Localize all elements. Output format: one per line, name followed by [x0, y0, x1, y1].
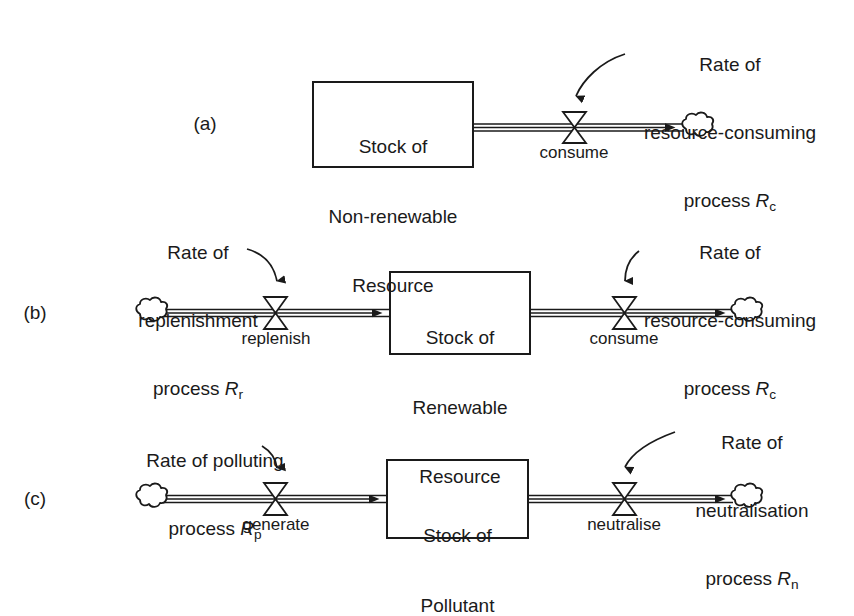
- rate-label-b-replenish-line2: replenishment: [108, 310, 288, 333]
- rate-subscript-c-generate: p: [254, 527, 262, 542]
- rate-label-c-neutralise-line1: Rate of: [654, 432, 850, 455]
- rate-label-c-neutralise-line3: process Rn: [654, 568, 850, 594]
- rate-label-c-generate-line2-text: process: [168, 518, 240, 539]
- stock-label-c-line1: Stock of: [387, 524, 528, 547]
- rate-label-b-replenish-line3-text: process: [153, 378, 225, 399]
- rate-label-c-generate-line1: Rate of polluting: [100, 450, 330, 473]
- rate-label-b-consume-line2: resource-consuming: [610, 310, 850, 333]
- panel-letter-b: (b): [10, 302, 60, 324]
- rate-label-b-replenish-line1: Rate of: [108, 242, 288, 265]
- rate-label-c-neutralise: Rate of neutralisation process Rn: [654, 386, 850, 616]
- rate-label-a-line1: Rate of: [610, 54, 850, 77]
- stock-label-b-line2: Renewable: [390, 396, 530, 419]
- flow-label-a-consume: consume: [524, 143, 624, 163]
- stock-label-c: Stock of Pollutant: [387, 478, 528, 616]
- rate-label-c-neutralise-line3-text: process: [705, 568, 777, 589]
- rate-subscript-c-neutralise: n: [791, 577, 799, 592]
- stock-label-a-line2: Non-renewable: [313, 205, 473, 228]
- rate-label-b-replenish-line3: process Rr: [108, 378, 288, 404]
- rate-symbol-b-replenish: R: [225, 378, 239, 399]
- rate-label-c-generate-line2: process Rp: [100, 518, 330, 544]
- rate-label-a-line2: resource-consuming: [610, 122, 850, 145]
- rate-label-c-neutralise-line2: neutralisation: [654, 500, 850, 523]
- rate-label-c-generate: Rate of polluting process Rp: [100, 404, 330, 589]
- rate-subscript-b-replenish: r: [238, 387, 243, 402]
- rate-symbol-c-generate: R: [240, 518, 254, 539]
- rate-symbol-c-neutralise: R: [777, 568, 791, 589]
- panel-letter-a: (a): [180, 113, 230, 135]
- rate-label-b-consume-line1: Rate of: [610, 242, 850, 265]
- stock-label-c-line2: Pollutant: [387, 594, 528, 616]
- stock-label-a-line1: Stock of: [313, 135, 473, 158]
- stock-label-b-line1: Stock of: [390, 326, 530, 349]
- panel-letter-c: (c): [10, 488, 60, 510]
